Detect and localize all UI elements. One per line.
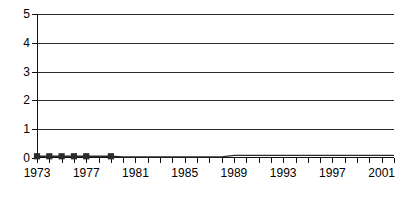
x-tick-1983 [160,158,161,163]
x-tick-1993 [283,158,284,163]
x-axis-label-2001: 2001 [368,167,395,179]
series-line [37,155,394,156]
x-tick-1991 [259,158,260,163]
x-tick-1989 [234,158,235,163]
x-axis-label-1993: 1993 [270,167,297,179]
x-tick-1999 [357,158,358,163]
data-marker-1973 [34,153,40,159]
y-axis-label-2: 2 [23,94,30,106]
x-tick-1994 [296,158,297,163]
x-axis-label-1981: 1981 [122,167,149,179]
x-tick-2000 [369,158,370,163]
chart-container: 012345 19731977198119851989199319972001 [0,0,412,198]
x-axis-label-1977: 1977 [73,167,100,179]
x-tick-1996 [320,158,321,163]
x-tick-1980 [123,158,124,163]
x-tick-1992 [271,158,272,163]
y-axis-label-3: 3 [23,66,30,78]
data-marker-1976 [71,153,77,159]
x-tick-1997 [332,158,333,163]
x-tick-2001 [382,158,383,163]
x-tick-1978 [99,158,100,163]
x-tick-2002 [394,158,395,163]
data-marker-1974 [46,153,52,159]
data-series-svg [37,14,394,158]
x-tick-1995 [308,158,309,163]
x-tick-1985 [185,158,186,163]
x-tick-1990 [246,158,247,163]
y-axis-label-0: 0 [23,152,30,164]
x-tick-1984 [172,158,173,163]
x-axis-label-1973: 1973 [24,167,51,179]
data-marker-1979 [108,153,114,159]
y-axis-label-5: 5 [23,8,30,20]
y-axis-label-1: 1 [23,123,30,135]
x-axis-label-1989: 1989 [221,167,248,179]
data-marker-1977 [83,153,89,159]
plot-area: 012345 19731977198119851989199319972001 [37,14,394,158]
x-tick-1988 [222,158,223,163]
x-tick-1987 [209,158,210,163]
x-tick-1981 [135,158,136,163]
x-tick-1982 [148,158,149,163]
data-marker-1975 [59,153,65,159]
x-tick-1998 [345,158,346,163]
y-axis-label-4: 4 [23,37,30,49]
x-axis-label-1985: 1985 [171,167,198,179]
x-tick-1986 [197,158,198,163]
x-axis-label-1997: 1997 [319,167,346,179]
